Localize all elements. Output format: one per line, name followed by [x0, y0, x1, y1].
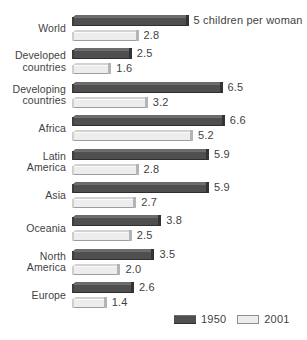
bar-end-cap — [136, 30, 139, 41]
bar-top-bevel — [73, 197, 137, 199]
bar-2001: 3.2 — [72, 97, 150, 110]
bar-body — [72, 84, 220, 93]
bar-value-label: 6.6 — [230, 114, 246, 127]
bar-body — [72, 32, 136, 41]
bar-left-face — [72, 132, 74, 141]
bar-top-bevel — [73, 264, 121, 266]
bar-1950: 5.9 — [72, 182, 211, 195]
bar-2001: 1.4 — [72, 297, 109, 310]
bar-body — [72, 232, 129, 241]
bar-group: Africa6.65.2 — [0, 114, 307, 146]
legend-swatch-dark-icon — [174, 315, 196, 324]
bar-body — [72, 132, 190, 141]
legend-item-2001: 2001 — [237, 313, 289, 325]
bar-body — [72, 117, 222, 126]
bar-end-cap — [133, 197, 136, 208]
bar-body — [72, 184, 206, 193]
bar-group: Developing countries6.53.2 — [0, 81, 307, 113]
legend-swatch-light-icon — [237, 315, 259, 324]
bar-top-bevel — [73, 282, 135, 284]
legend-item-1950: 1950 — [174, 313, 226, 325]
bar-value-label: 2.6 — [139, 281, 155, 294]
bar-end-cap — [206, 149, 209, 160]
bar-top-bevel — [73, 130, 194, 132]
bar-body — [72, 65, 108, 74]
bar-left-face — [72, 151, 74, 160]
bar-value-label: 5.9 — [214, 181, 230, 194]
bar-1950: 5 children per woman — [72, 15, 191, 28]
bar-value-label: 3.2 — [153, 96, 169, 109]
bar-1950: 3.5 — [72, 249, 156, 262]
bar-left-face — [72, 84, 74, 93]
bar-left-face — [72, 266, 74, 275]
bar-value-label: 3.8 — [166, 214, 182, 227]
category-label: Developing countries — [0, 84, 66, 107]
bar-left-face — [72, 50, 74, 59]
fertility-bar-chart: World5 children per woman2.8Developed co… — [0, 0, 307, 340]
bar-left-face — [72, 184, 74, 193]
bar-value-label: 3.5 — [159, 248, 175, 261]
bar-value-label: 6.5 — [228, 81, 244, 94]
bar-body — [72, 299, 104, 308]
chart-legend: 1950 2001 — [174, 312, 290, 326]
bar-1950: 6.6 — [72, 115, 227, 128]
bar-2001: 2.5 — [72, 230, 134, 243]
category-label: World — [0, 23, 66, 35]
bar-top-bevel — [73, 249, 155, 251]
bar-end-cap — [220, 82, 223, 93]
bar-group: World5 children per woman2.8 — [0, 14, 307, 46]
bar-group: Asia5.92.7 — [0, 181, 307, 213]
bar-left-face — [72, 65, 74, 74]
bar-left-face — [72, 232, 74, 241]
bar-body — [72, 17, 186, 26]
legend-label-1950: 1950 — [201, 313, 226, 325]
bar-value-label: 2.8 — [144, 163, 160, 176]
bar-group: North America3.52.0 — [0, 248, 307, 280]
bar-group: Latin America5.92.8 — [0, 148, 307, 180]
bar-value-label: 5.2 — [198, 129, 214, 142]
bar-body — [72, 284, 131, 293]
bar-1950: 2.5 — [72, 48, 134, 61]
category-label: Oceania — [0, 223, 66, 235]
bar-group: Developed countries2.51.6 — [0, 47, 307, 79]
bar-top-bevel — [73, 15, 189, 17]
bar-group: Oceania3.82.5 — [0, 214, 307, 246]
bar-value-label: 2.7 — [141, 196, 157, 209]
bar-value-label: 1.4 — [112, 296, 128, 309]
bar-body — [72, 50, 129, 59]
legend-label-2001: 2001 — [264, 313, 289, 325]
bar-left-face — [72, 17, 74, 26]
bar-2001: 5.2 — [72, 130, 195, 143]
bar-body — [72, 199, 133, 208]
bar-left-face — [72, 117, 74, 126]
bar-top-bevel — [73, 82, 223, 84]
bar-group: Europe2.61.4 — [0, 281, 307, 313]
bar-body — [72, 266, 117, 275]
category-label: Africa — [0, 123, 66, 135]
bar-end-cap — [104, 297, 107, 308]
bar-body — [72, 251, 151, 260]
bar-2001: 1.6 — [72, 63, 113, 76]
category-label: Europe — [0, 290, 66, 302]
bar-2001: 2.8 — [72, 30, 141, 43]
bar-value-label: 1.6 — [116, 62, 132, 75]
bar-left-face — [72, 199, 74, 208]
bar-end-cap — [151, 249, 154, 260]
bar-1950: 2.6 — [72, 282, 136, 295]
bar-value-label: 2.5 — [137, 229, 153, 242]
bar-top-bevel — [73, 30, 139, 32]
bar-1950: 3.8 — [72, 215, 163, 228]
bar-body — [72, 99, 145, 108]
bar-value-label: 5.9 — [214, 148, 230, 161]
bar-left-face — [72, 99, 74, 108]
bar-end-cap — [145, 97, 148, 108]
bar-top-bevel — [73, 182, 209, 184]
bar-end-cap — [131, 282, 134, 293]
bar-left-face — [72, 166, 74, 175]
category-label: Developed countries — [0, 50, 66, 73]
bar-value-label: 2.0 — [125, 263, 141, 276]
bar-end-cap — [136, 164, 139, 175]
bar-top-bevel — [73, 164, 139, 166]
bar-body — [72, 217, 158, 226]
category-label: Asia — [0, 190, 66, 202]
